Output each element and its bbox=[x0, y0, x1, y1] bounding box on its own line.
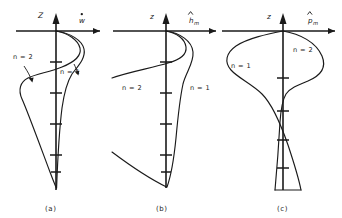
panel-a-horizontal-axis-label: w bbox=[79, 16, 85, 25]
panel-b: n = 2 n = 1 z h m (b) bbox=[112, 12, 216, 213]
panel-a-horizontal-axis-label-group: w bbox=[79, 13, 85, 25]
panel-c-curve-n1 bbox=[227, 31, 301, 190]
panel-c-label-n1-group: n = 1 bbox=[231, 62, 251, 70]
panel-a-label-n2: n = 2 bbox=[13, 53, 33, 61]
panel-c: n = 1 n = 2 z p m (c) bbox=[222, 12, 335, 213]
panel-a-vertical-axis-label: Z bbox=[37, 11, 44, 20]
panel-b-label-n1-group: n = 1 bbox=[190, 84, 210, 92]
panel-a: n = 2 n = 1 Z w (a) bbox=[13, 11, 100, 213]
panel-b-vertical-axis bbox=[163, 13, 170, 188]
panel-c-horizontal-axis-subscript: m bbox=[313, 20, 318, 26]
panel-a-w-dot-accent-icon bbox=[81, 13, 83, 15]
panel-b-horizontal-axis-subscript: m bbox=[194, 20, 199, 26]
panel-b-curve-n1 bbox=[166, 31, 193, 187]
panel-b-h-hat-accent-icon bbox=[188, 12, 193, 15]
panel-a-curve-n1 bbox=[56, 31, 84, 188]
panel-b-label-n2-group: n = 2 bbox=[122, 84, 142, 92]
panel-c-caption: (c) bbox=[277, 205, 288, 213]
panel-b-curve-n2-lower bbox=[112, 152, 167, 187]
panel-b-horizontal-axis-label-group: h m bbox=[188, 12, 199, 26]
panel-c-p-hat-accent-icon bbox=[308, 12, 313, 15]
panel-c-horizontal-axis-label-group: p m bbox=[307, 12, 318, 26]
figure-canvas: n = 2 n = 1 Z w (a) bbox=[0, 0, 342, 218]
panel-b-curve-n2 bbox=[112, 31, 186, 78]
panel-b-label-n2: n = 2 bbox=[122, 84, 142, 92]
panel-b-horizontal-axis bbox=[113, 28, 216, 34]
panel-a-label-n2-group: n = 2 bbox=[13, 53, 34, 82]
panel-c-label-n2: n = 2 bbox=[293, 46, 313, 54]
panel-a-vertical-axis bbox=[53, 13, 60, 190]
figure-three-panel-mode-shapes: n = 2 n = 1 Z w (a) bbox=[0, 0, 342, 218]
panel-c-label-n2-group: n = 2 bbox=[293, 46, 313, 54]
panel-b-vertical-axis-label: z bbox=[149, 12, 154, 21]
panel-b-label-n1: n = 1 bbox=[190, 84, 210, 92]
panel-c-vertical-axis-label: z bbox=[266, 12, 271, 21]
panel-b-caption: (b) bbox=[156, 205, 168, 213]
panel-a-label-n1-group: n = 1 bbox=[60, 64, 80, 76]
panel-a-caption: (a) bbox=[45, 205, 57, 213]
panel-c-label-n1: n = 1 bbox=[231, 62, 251, 70]
panel-c-horizontal-axis bbox=[222, 28, 335, 34]
